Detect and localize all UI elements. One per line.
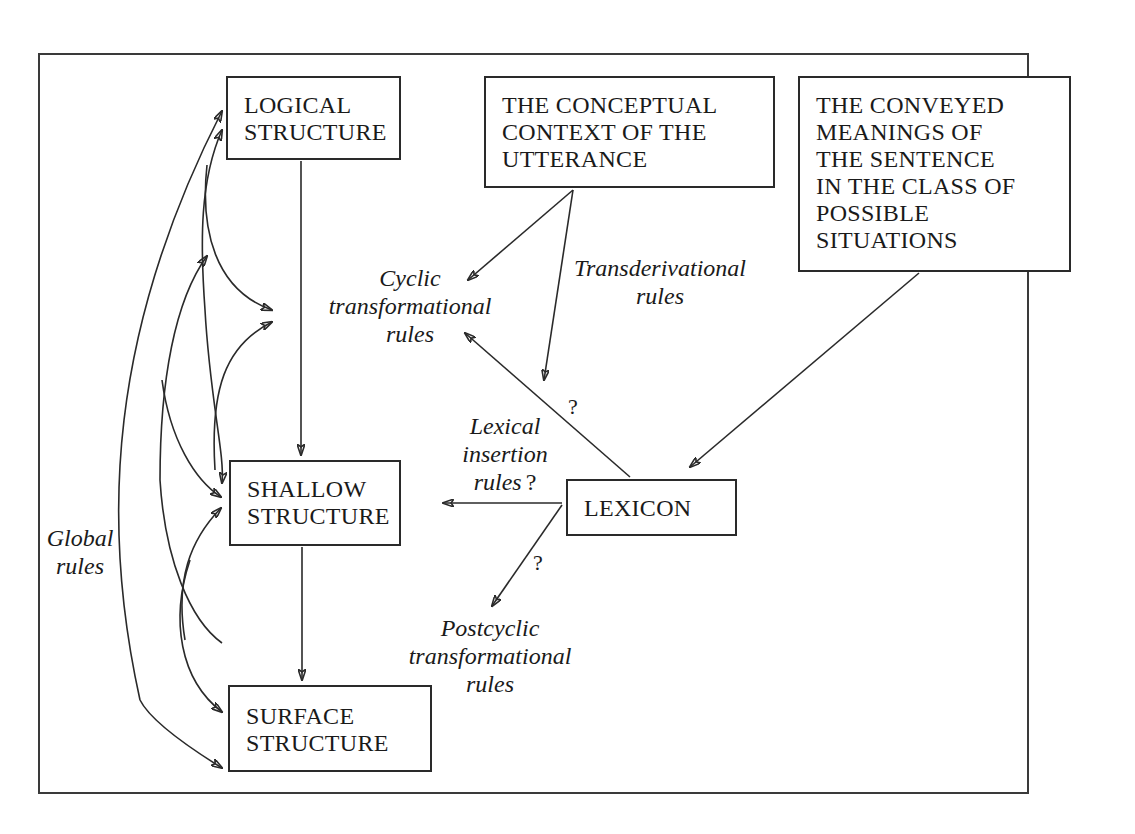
- node-surface-structure-line: SURFACE: [246, 703, 430, 730]
- node-lexicon-line: LEXICON: [584, 495, 735, 522]
- node-logical-structure-line: LOGICAL: [244, 92, 399, 119]
- qmark-lexicon-to-postcyclic: ?: [533, 552, 543, 574]
- node-lexicon: LEXICON: [566, 479, 737, 536]
- edge-into-shallow-upper: [162, 380, 221, 497]
- label-postcyclic-rules-line: rules: [390, 670, 590, 698]
- label-cyclic-rules: Cyclic transformational rules: [310, 264, 510, 348]
- edge-global-to-cyclic-level-upper: [160, 256, 207, 480]
- node-conveyed-meanings-line: MEANINGS OF: [816, 119, 1069, 146]
- label-cyclic-rules-line: Cyclic: [310, 264, 510, 292]
- label-lexical-insertion-line: Lexical: [445, 412, 565, 440]
- edge-global-outer-to-surface: [140, 700, 222, 768]
- node-conveyed-meanings-line: SITUATIONS: [816, 227, 1069, 254]
- label-transderivational-rules-line: rules: [560, 282, 760, 310]
- label-postcyclic-rules: Postcyclic transformational rules: [390, 614, 590, 698]
- edge-logical-curve-to-cyclic-level: [205, 165, 272, 310]
- node-conveyed-meanings-line: IN THE CLASS OF: [816, 173, 1069, 200]
- node-logical-structure: LOGICAL STRUCTURE: [226, 76, 401, 160]
- edge-global-outer-to-logical: [119, 111, 222, 700]
- label-cyclic-rules-line: transformational: [310, 292, 510, 320]
- edge-lexicon-to-postcyclic: [492, 505, 562, 606]
- label-transderivational-rules-line: Transderivational: [560, 254, 760, 282]
- node-conceptual-context-line: UTTERANCE: [502, 146, 773, 173]
- node-surface-structure: SURFACE STRUCTURE: [228, 685, 432, 772]
- node-shallow-structure: SHALLOW STRUCTURE: [229, 460, 401, 546]
- edge-logical-to-shallow-curve-up: [202, 130, 222, 310]
- label-global-rules-line: Global: [40, 524, 120, 552]
- node-conveyed-meanings-line: THE CONVEYED: [816, 92, 1069, 119]
- node-shallow-structure-line: STRUCTURE: [247, 503, 399, 530]
- node-logical-structure-line: STRUCTURE: [244, 119, 399, 146]
- node-shallow-structure-line: SHALLOW: [247, 476, 399, 503]
- label-global-rules: Global rules: [40, 524, 120, 580]
- node-conceptual-context-line: THE CONCEPTUAL: [502, 92, 773, 119]
- label-lexical-insertion-qmark: ?: [526, 469, 537, 495]
- qmark-lexicon-to-cyclic: ?: [568, 396, 578, 418]
- node-conceptual-context-line: CONTEXT OF THE: [502, 119, 773, 146]
- grammar-model-diagram: LOGICAL STRUCTURE THE CONCEPTUAL CONTEXT…: [0, 0, 1135, 834]
- label-transderivational-rules: Transderivational rules: [560, 254, 760, 310]
- node-conceptual-context: THE CONCEPTUAL CONTEXT OF THE UTTERANCE: [484, 76, 775, 188]
- edge-into-shallow-lower: [182, 508, 221, 640]
- label-cyclic-rules-line: rules: [310, 320, 510, 348]
- label-lexical-insertion-rules: Lexical insertion rules?: [445, 412, 565, 496]
- node-conveyed-meanings-line: THE SENTENCE: [816, 146, 1069, 173]
- label-lexical-insertion-line: rules?: [445, 468, 565, 496]
- node-conveyed-meanings-line: POSSIBLE: [816, 200, 1069, 227]
- label-lexical-insertion-rules-word: rules: [474, 469, 522, 495]
- edge-shallow-surface-curve: [180, 560, 222, 712]
- label-lexical-insertion-line: insertion: [445, 440, 565, 468]
- label-postcyclic-rules-line: Postcyclic: [390, 614, 590, 642]
- edge-shallow-curve-to-cyclic-level: [214, 322, 272, 470]
- label-postcyclic-rules-line: transformational: [390, 642, 590, 670]
- node-surface-structure-line: STRUCTURE: [246, 730, 430, 757]
- edge-global-to-cyclic-level-lower: [160, 480, 222, 643]
- label-global-rules-line: rules: [40, 552, 120, 580]
- node-conveyed-meanings: THE CONVEYED MEANINGS OF THE SENTENCE IN…: [798, 76, 1071, 272]
